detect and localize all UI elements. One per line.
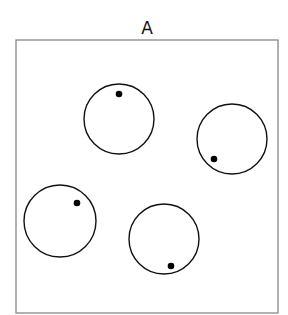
circle-with-dot — [84, 84, 154, 154]
diagram-panel — [0, 0, 288, 315]
circle-with-dot — [24, 185, 96, 257]
circle-outline — [197, 104, 267, 174]
dot-marker — [74, 200, 81, 207]
dot-marker — [211, 156, 218, 163]
dot-marker — [116, 91, 123, 98]
circle-outline — [24, 185, 96, 257]
circle-group — [24, 84, 267, 274]
panel-frame — [16, 40, 278, 313]
circle-with-dot — [129, 204, 199, 274]
circle-with-dot — [197, 104, 267, 174]
dot-marker — [168, 263, 175, 270]
circle-outline — [129, 204, 199, 274]
